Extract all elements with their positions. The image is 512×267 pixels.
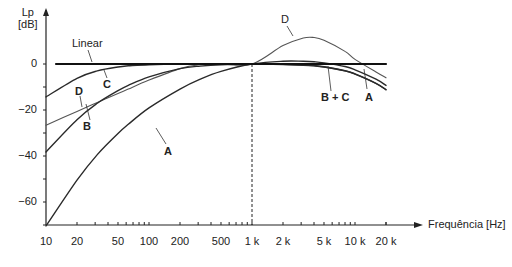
curve-label-a-low: A [164,145,172,157]
y-axis-label-line2: [dB] [18,18,38,30]
y-axis-label: Lp [dB] [18,6,38,30]
curve-label-bc-high: B + C [321,91,349,103]
y-axis-label-line1: Lp [18,6,38,18]
leader-line [287,26,293,36]
x-tick-label: 20 k [366,235,406,247]
curve-d [46,37,386,125]
leader-line [104,70,107,78]
curve-a [46,61,386,226]
y-axis-arrow-icon [43,8,49,16]
label-leader-lines [80,26,367,144]
x-axis-arrow-icon [414,222,423,228]
leader-line [328,66,331,91]
curves [46,37,386,226]
curve-label-c: C [103,78,111,90]
leader-line [156,128,166,144]
curve-label-a-high: A [365,91,373,103]
curve-label-d-high: D [281,13,289,25]
x-axis-label: Frequência [Hz] [428,218,506,230]
y-tick-label: −20 [18,103,37,115]
curve-label-linear: Linear [72,37,103,49]
y-tick-label: −60 [18,195,37,207]
x-tick-label: 200 [160,235,200,247]
x-tick-label: 20 [57,235,97,247]
leader-line [88,50,92,62]
leader-line [80,96,82,107]
curve-b [46,64,386,152]
curve-label-b: B [83,120,91,132]
x-tick-label: 2 k [263,235,303,247]
y-tick-label: 0 [31,57,37,69]
y-tick-label: −40 [18,149,37,161]
curve-label-d-low: D [75,85,83,97]
